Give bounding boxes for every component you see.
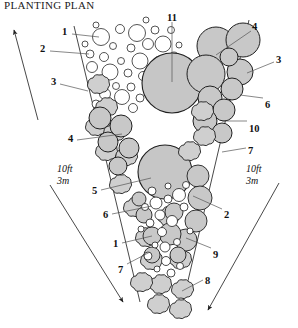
groundcover-circle [124, 69, 132, 77]
arrow-lower-right [208, 183, 279, 310]
massing-circle [187, 165, 209, 187]
tree-circle [109, 157, 127, 175]
groundcover-circle [164, 195, 172, 203]
tree-circle-group-left [89, 107, 139, 175]
groundcover-circle [154, 266, 160, 272]
groundcover-circle [138, 226, 144, 232]
groundcover-circle [143, 17, 149, 23]
groundcover-circle [143, 39, 154, 50]
groundcover-circle [162, 257, 171, 266]
callout-number-2: 2 [224, 210, 229, 221]
groundcover-circle [155, 36, 171, 52]
tree-circle [89, 107, 111, 129]
callout-number-3: 3 [51, 77, 56, 88]
groundcover-circle [100, 53, 109, 62]
callout-number-2: 2 [40, 44, 45, 55]
scale-right-feet: 10ft [246, 163, 262, 175]
groundcover-circle [87, 62, 98, 73]
groundcover-circle [129, 25, 146, 42]
scale-left-meters: 3m [57, 175, 73, 187]
callout-number-4: 4 [252, 22, 257, 33]
groundcover-circle [93, 29, 110, 46]
groundcover-circle [155, 210, 165, 220]
leader-line [60, 84, 88, 91]
groundcover-circle [148, 187, 156, 195]
callout-number-6: 6 [103, 210, 108, 221]
tree-circle [221, 78, 243, 100]
callout-number-1: 1 [113, 239, 118, 250]
groundcover-circle [152, 242, 158, 248]
scale-left-feet: 10ft [57, 163, 73, 175]
groundcover-circle [150, 197, 162, 209]
groundcover-circle [116, 25, 125, 34]
groundcover-circle [173, 189, 186, 202]
groundcover-circle [183, 182, 190, 189]
shrub-cloud [87, 75, 109, 94]
shrub-cloud [169, 300, 191, 319]
groundcover-circle [127, 44, 135, 52]
groundcover-circle [187, 228, 193, 234]
groundcover-circle [82, 41, 88, 47]
callout-number-4: 4 [68, 134, 73, 145]
massing-circle [188, 186, 212, 210]
groundcover-circle [136, 94, 144, 102]
callout-number-11: 11 [167, 13, 177, 24]
groundcover-circle [165, 183, 171, 189]
leader-line [240, 95, 263, 98]
groundcover-circle [129, 104, 138, 113]
groundcover-circle [167, 216, 178, 227]
arrow-upper-left [14, 30, 38, 120]
planting-plan-figure: PLANTING PLAN [0, 0, 298, 328]
scale-label-right: 10ft 3m [246, 163, 262, 186]
callout-number-1: 1 [62, 27, 67, 38]
leader-line [50, 51, 89, 54]
shrub-cloud [171, 280, 193, 299]
shrub-cloud [147, 295, 169, 314]
groundcover-circle [146, 219, 154, 227]
groundcover-circle [174, 239, 181, 246]
leader-line [222, 148, 246, 152]
groundcover-circle [127, 83, 135, 91]
tree-circle [119, 138, 139, 158]
callout-number-7: 7 [248, 146, 253, 157]
scale-right-meters: 3m [246, 175, 262, 187]
groundcover-circle [177, 263, 184, 270]
shrub-cloud [109, 175, 131, 194]
groundcover-circle [160, 242, 170, 252]
groundcover-circle [118, 58, 125, 65]
groundcover-circle [176, 42, 182, 48]
groundcover-circle [158, 228, 167, 237]
callout-number-3: 3 [276, 55, 281, 66]
callout-number-10: 10 [249, 124, 260, 135]
massing-circle [170, 247, 186, 263]
callout-number-9: 9 [213, 250, 218, 261]
groundcover-circle [132, 53, 148, 69]
scale-label-left: 10ft 3m [57, 163, 73, 186]
groundcover-circle [180, 203, 188, 211]
callout-number-5: 5 [92, 186, 97, 197]
callout-number-8: 8 [205, 276, 210, 287]
callout-number-7: 7 [118, 265, 123, 276]
callout-number-6: 6 [265, 100, 270, 111]
groundcover-circle [113, 83, 120, 90]
groundcover-circle [151, 26, 159, 34]
groundcover-circle [93, 22, 99, 28]
groundcover-circle [110, 43, 117, 50]
groundcover-circle [167, 269, 175, 277]
groundcover-circle [168, 27, 175, 34]
